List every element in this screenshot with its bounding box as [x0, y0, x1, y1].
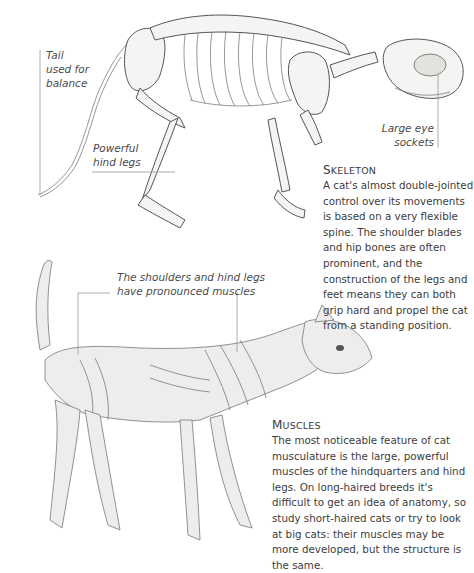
hind-legs-label-line-1: Powerful: [93, 141, 141, 155]
tail-label-line-2: used for: [46, 62, 89, 76]
muscles-heading: Muscles: [272, 418, 474, 433]
muscles-heading-initial: M: [272, 418, 283, 432]
shoulders-label-line-2: have pronounced muscles: [117, 284, 265, 298]
skeleton-body-text: A cat's almost double-jointed control ov…: [323, 178, 474, 334]
eye-sockets-label: Large eye sockets: [372, 121, 434, 149]
skeleton-heading-rest: keleton: [331, 165, 376, 176]
tail-label-line-3: balance: [46, 76, 89, 90]
hind-legs-label-line-2: hind legs: [93, 155, 141, 169]
skeleton-heading: Skeleton: [323, 163, 474, 178]
muscles-text-block: Muscles The most noticeable feature of c…: [272, 418, 474, 573]
muscles-body-text: The most noticeable feature of cat muscu…: [272, 433, 474, 573]
skeleton-heading-initial: S: [323, 163, 331, 177]
shoulders-label: The shoulders and hind legs have pronoun…: [117, 270, 265, 298]
shoulders-label-line-1: The shoulders and hind legs: [117, 270, 265, 284]
eye-sockets-label-line-2: sockets: [372, 135, 434, 149]
tail-label-line-1: Tail: [46, 48, 89, 62]
muscles-heading-rest: uscles: [283, 420, 321, 431]
hind-legs-label: Powerful hind legs: [93, 141, 141, 169]
skeleton-text-block: Skeleton A cat's almost double-jointed c…: [323, 163, 474, 334]
eye-sockets-label-line-1: Large eye: [372, 121, 434, 135]
tail-label: Tail used for balance: [46, 48, 89, 90]
